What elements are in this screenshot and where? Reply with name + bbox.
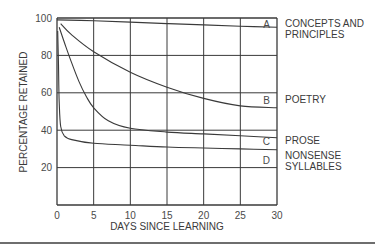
legend-label-b: POETRY: [285, 94, 326, 105]
curve-letter-d: D: [263, 155, 270, 166]
curve-letter-c: C: [263, 136, 270, 147]
x-tick-label: 10: [125, 210, 137, 221]
y-tick-label: 80: [41, 50, 53, 61]
x-axis-label: DAYS SINCE LEARNING: [110, 221, 224, 232]
x-tick-label: 15: [161, 210, 173, 221]
x-tick-label: 20: [198, 210, 210, 221]
curve-c: [59, 27, 277, 137]
x-tick-label: 5: [91, 210, 97, 221]
y-axis-label: PERCENTAGE RETAINED: [18, 52, 29, 173]
grid-lines: [57, 18, 277, 205]
legend-label-a: PRINCIPLES: [285, 29, 345, 40]
curve-letter-b: B: [263, 95, 270, 106]
y-tick-label: 60: [41, 87, 53, 98]
y-tick-label: 100: [35, 13, 52, 24]
x-tick-label: 25: [235, 210, 247, 221]
legend-label-a: CONCEPTS AND: [285, 18, 364, 29]
legend-label-d: SYLLABLES: [285, 161, 342, 172]
curve-letter-a: A: [263, 19, 270, 30]
y-tick-label: 40: [41, 125, 53, 136]
axis-ticks: 05101520253020406080100: [35, 13, 283, 222]
x-tick-label: 30: [271, 210, 283, 221]
y-tick-label: 20: [41, 162, 53, 173]
legend-label-d: NONSENSE: [285, 150, 341, 161]
curve-labels: ACONCEPTS ANDPRINCIPLESBPOETRYCPROSEDNON…: [263, 18, 364, 172]
bottom-divider: [0, 242, 375, 244]
curve-b: [61, 24, 277, 108]
legend-label-c: PROSE: [285, 135, 320, 146]
x-tick-label: 0: [54, 210, 60, 221]
retention-chart: 05101520253020406080100 ACONCEPTS ANDPRI…: [0, 0, 375, 249]
